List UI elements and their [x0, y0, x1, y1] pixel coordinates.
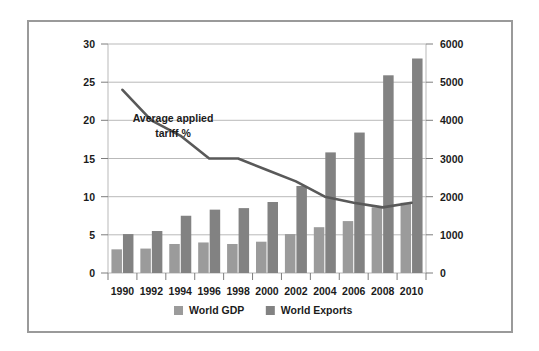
x-axis-tick-label-2000: 2000: [255, 285, 279, 297]
x-axis: 1990199219941996199820002002200420062008…: [108, 273, 426, 297]
left-axis-tick-label: 5: [89, 229, 95, 241]
x-axis-tick-label-1998: 1998: [226, 285, 250, 297]
bar-world-exports-2010: [412, 59, 423, 274]
bar-world-exports-2008: [383, 75, 394, 273]
bar-world-exports-1990: [123, 234, 134, 273]
right-axis-tick-label: 4000: [440, 114, 464, 126]
x-axis-tick-label-2006: 2006: [342, 285, 366, 297]
x-axis-tick-label-1994: 1994: [169, 285, 193, 297]
legend-swatch-world-exports: [266, 306, 275, 315]
legend: World GDPWorld Exports: [174, 304, 353, 316]
chart-canvas: 30 25 20 15 10 5 0 6000 5000 4000 3000 2…: [29, 22, 515, 335]
bar-world-exports-1996: [210, 210, 221, 273]
x-axis-tick-label-1992: 1992: [140, 285, 164, 297]
x-axis-tick-label-2004: 2004: [313, 285, 337, 297]
right-axis-tick-label: 1000: [440, 229, 464, 241]
bar-world-gdp-1998: [227, 244, 238, 273]
bar-world-exports-1992: [152, 231, 163, 273]
bar-world-exports-1998: [239, 208, 250, 273]
bar-world-gdp-1994: [169, 244, 180, 273]
right-axis-tick-label: 0: [440, 267, 446, 279]
bar-world-gdp-1992: [140, 249, 151, 273]
bar-world-exports-2002: [296, 186, 307, 273]
annotation-line-1: Average applied: [133, 112, 214, 124]
chart-frame: 30 25 20 15 10 5 0 6000 5000 4000 3000 2…: [27, 20, 513, 333]
bar-world-gdp-2006: [343, 221, 354, 273]
bar-world-exports-1994: [181, 216, 192, 273]
left-axis-tick-label: 0: [89, 267, 95, 279]
bar-world-gdp-2008: [372, 207, 383, 273]
bar-world-gdp-1990: [111, 249, 122, 273]
right-axis-tick-label: 3000: [440, 153, 464, 165]
annotation-line-2: tariff %: [155, 127, 191, 139]
left-axis-tick-label: 30: [83, 38, 95, 50]
left-axis-tick-label: 20: [83, 114, 95, 126]
bar-world-gdp-2010: [401, 203, 412, 273]
x-axis-tick-label-1996: 1996: [198, 285, 222, 297]
x-axis-tick-label-1990: 1990: [111, 285, 135, 297]
left-axis-tick-label: 15: [83, 153, 95, 165]
bar-world-gdp-2002: [285, 234, 296, 273]
bar-world-exports-2004: [325, 152, 336, 273]
legend-label-world-gdp: World GDP: [189, 304, 244, 316]
left-axis-tick-label: 25: [83, 76, 95, 88]
bar-world-exports-2000: [268, 202, 279, 273]
right-axis-tick-label: 5000: [440, 76, 464, 88]
left-axis-tick-label: 10: [83, 191, 95, 203]
bar-world-gdp-2000: [256, 242, 267, 273]
right-axis: 6000 5000 4000 3000 2000 1000 0: [426, 38, 464, 279]
legend-swatch-world-gdp: [174, 306, 183, 315]
bar-world-gdp-2004: [314, 227, 325, 273]
x-axis-tick-label-2008: 2008: [371, 285, 395, 297]
x-axis-tick-label-2010: 2010: [400, 285, 424, 297]
right-axis-tick-label: 2000: [440, 191, 464, 203]
bar-world-gdp-1996: [198, 242, 209, 273]
right-axis-tick-label: 6000: [440, 38, 464, 50]
legend-label-world-exports: World Exports: [281, 304, 353, 316]
x-axis-tick-label-2002: 2002: [284, 285, 308, 297]
left-axis: 30 25 20 15 10 5 0: [83, 38, 108, 279]
